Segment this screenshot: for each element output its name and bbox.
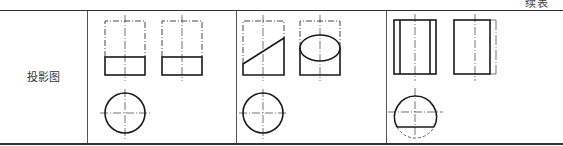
cylinder-vertical-cut-drawing xyxy=(387,11,563,143)
cylinder-oblique-cut-drawing xyxy=(237,11,386,143)
projection-panel-3 xyxy=(387,11,563,143)
projection-panel-1 xyxy=(88,11,236,143)
projection-panel-2 xyxy=(237,11,386,143)
table-bottom-rule xyxy=(0,143,563,145)
cylinder-horizontal-cut-drawing xyxy=(88,11,236,143)
table-caption: 续表 xyxy=(525,0,549,10)
row-label: 投影图 xyxy=(0,68,87,84)
